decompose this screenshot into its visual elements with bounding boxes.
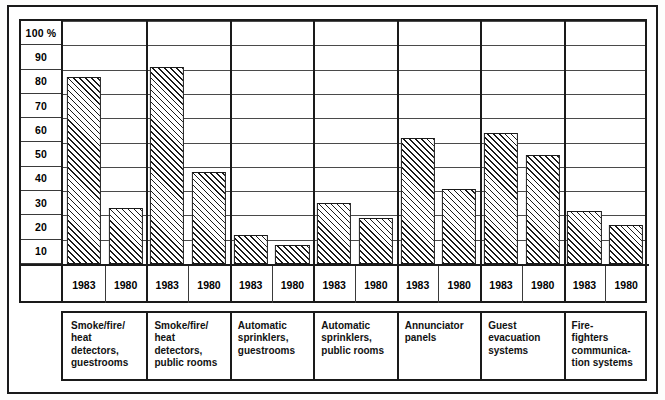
y-axis-tick-60: 60 [21,118,61,142]
bar-slot [105,21,147,264]
category-label-4: Automatic sprinklers, public rooms [313,313,396,379]
year-divider [105,266,106,303]
year-divider [522,266,523,303]
category-label-1: Smoke/fire/ heat detectors, guestrooms [63,313,146,379]
category-divider [313,313,315,379]
year-divider [605,266,606,303]
bar-1983-group4 [317,203,351,264]
year-divider [355,266,356,303]
year-label-1983-group4: 1983 [313,266,355,303]
category-label-7: Fire- fighters communica- tion systems [564,313,647,379]
category-divider [480,313,482,379]
bar-1983-group3 [234,235,268,264]
y-axis-label-column: 100 %908070605040302010 [21,21,63,301]
year-divider [564,266,566,303]
bar-slot [188,21,230,264]
year-label-1980-group3: 1980 [272,266,314,303]
chart-page: 100 %908070605040302010 1983198019831980… [0,0,665,400]
year-label-1980-group1: 1980 [105,266,147,303]
bar-slot [313,21,355,264]
bar-1983-group1 [67,77,101,264]
year-divider [313,266,315,303]
year-divider [188,266,189,303]
category-label-2: Smoke/fire/ heat detectors, public rooms [146,313,229,379]
year-divider [272,266,273,303]
bar-slot [63,21,105,264]
category-divider [230,313,232,379]
bar-1980-group5 [442,189,476,264]
category-label-5: Annunciator panels [397,313,480,379]
y-axis-tick-80: 80 [21,70,61,94]
bar-slot [230,21,272,264]
bar-1980-group4 [359,218,393,264]
bar-slot [522,21,564,264]
category-label-text: Fire- fighters communica- tion systems [572,320,647,370]
category-label-text: Automatic sprinklers, guestrooms [238,320,313,357]
bar-slot [480,21,522,264]
year-axis-row: 1983198019831980198319801983198019831980… [21,264,649,303]
y-axis-tick-30: 30 [21,191,61,215]
bar-slot [605,21,647,264]
bar-slot [564,21,606,264]
year-divider [397,266,399,303]
bar-1983-group7 [567,211,601,264]
year-label-1983-group7: 1983 [564,266,606,303]
bar-1980-group2 [192,172,226,264]
bar-1980-group7 [609,225,643,264]
bar-chart-figure: 100 %908070605040302010 1983198019831980… [19,19,647,381]
year-label-1980-group2: 1980 [188,266,230,303]
bar-1980-group3 [275,245,309,264]
year-divider [480,266,482,303]
bars-area [63,21,647,264]
bar-slot [438,21,480,264]
category-label-3: Automatic sprinklers, guestrooms [230,313,313,379]
category-label-text: Automatic sprinklers, public rooms [321,320,396,357]
y-axis-tick-90: 90 [21,45,61,69]
category-label-box: Smoke/fire/ heat detectors, guestroomsSm… [61,311,647,381]
y-axis-tick-10: 10 [21,240,61,264]
y-axis-tick-100: 100 % [21,21,61,45]
year-label-1983-group5: 1983 [397,266,439,303]
year-label-1980-group5: 1980 [438,266,480,303]
year-label-1983-group2: 1983 [146,266,188,303]
bar-1983-group2 [150,67,184,264]
category-divider [397,313,399,379]
year-divider [146,266,148,303]
bar-slot [272,21,314,264]
category-label-text: Annunciator panels [405,320,480,345]
year-label-1983-group3: 1983 [230,266,272,303]
bar-1983-group6 [484,133,518,264]
y-axis-tick-20: 20 [21,215,61,239]
year-label-1980-group4: 1980 [355,266,397,303]
y-axis-tick-70: 70 [21,94,61,118]
category-divider [146,313,148,379]
category-label-text: Guest evacuation systems [488,320,563,357]
bar-1980-group1 [108,208,142,264]
year-label-1983-group6: 1983 [480,266,522,303]
bar-1983-group5 [400,138,434,264]
category-label-text: Smoke/fire/ heat detectors, public rooms [154,320,229,370]
bar-slot [397,21,439,264]
y-axis-tick-40: 40 [21,167,61,191]
bar-slot [355,21,397,264]
category-label-text: Smoke/fire/ heat detectors, guestrooms [71,320,146,370]
y-axis-tick-50: 50 [21,143,61,167]
year-label-1983-group1: 1983 [63,266,105,303]
category-label-6: Guest evacuation systems [480,313,563,379]
year-axis-spacer [21,266,63,303]
bar-1980-group6 [526,155,560,264]
year-divider [438,266,439,303]
year-label-1980-group7: 1980 [605,266,647,303]
category-divider [564,313,566,379]
plot-area: 100 %908070605040302010 1983198019831980… [19,19,647,303]
year-divider [230,266,232,303]
year-label-1980-group6: 1980 [522,266,564,303]
bar-slot [146,21,188,264]
